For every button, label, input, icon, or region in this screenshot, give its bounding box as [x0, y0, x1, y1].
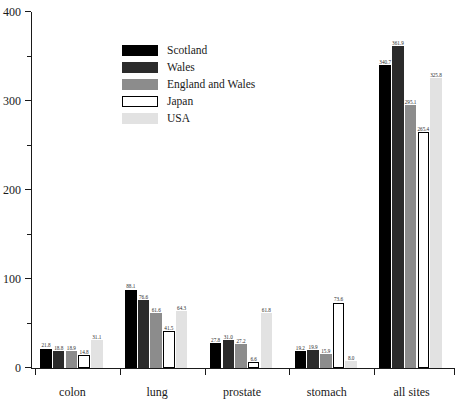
bar: 76.6: [138, 300, 150, 368]
chart-legend: ScotlandWalesEngland and WalesJapanUSA: [122, 42, 255, 127]
x-axis-category-label: prostate: [223, 386, 261, 398]
bar-value-label: 340.7: [379, 60, 391, 65]
bar-value-label: 14.8: [80, 350, 89, 355]
bar: 88.1: [125, 290, 137, 368]
bar-value-label: 361.9: [392, 41, 404, 46]
bar: 64.3: [176, 311, 188, 368]
bar: 61.8: [261, 313, 273, 368]
x-axis-category-label: colon: [59, 386, 86, 398]
y-axis-tick-label: 300: [3, 95, 21, 107]
bar: 19.9: [307, 350, 319, 368]
x-axis-tick: [120, 368, 121, 375]
bar: 61.6: [150, 313, 162, 368]
bar-value-label: 31.0: [224, 335, 233, 340]
y-axis-tick: 0: [25, 367, 31, 368]
bar-value-label: 265.4: [417, 127, 429, 132]
legend-label: Scotland: [167, 45, 207, 57]
legend-item: Japan: [122, 93, 255, 110]
bar-value-label: 61.6: [152, 308, 161, 313]
bar-value-label: 19.9: [309, 345, 318, 350]
bar-value-label: 88.1: [126, 284, 135, 289]
bar: 15.9: [320, 354, 332, 368]
bar-value-label: 6.6: [250, 357, 256, 362]
bar-value-label: 18.8: [54, 346, 63, 351]
bar: 14.8: [78, 355, 90, 368]
bar-value-label: 41.5: [164, 326, 173, 331]
bar: 21.8: [40, 349, 52, 368]
legend-item: England and Wales: [122, 76, 255, 93]
y-axis-tick: 100: [25, 278, 31, 279]
x-axis-tick: [289, 368, 290, 375]
y-axis-minor-tick: [27, 323, 31, 324]
legend-item: USA: [122, 110, 255, 127]
y-axis-tick-label: 400: [3, 6, 21, 18]
y-axis-tick: 300: [25, 100, 31, 101]
legend-label: Japan: [167, 96, 193, 108]
x-axis-tick: [454, 368, 455, 375]
x-axis-category-label: lung: [147, 386, 168, 398]
legend-swatch: [122, 45, 158, 56]
bar: 73.6: [333, 303, 345, 369]
bar: 18.8: [53, 351, 65, 368]
x-axis-category-label: all sites: [393, 386, 429, 398]
bar-value-label: 61.8: [262, 308, 271, 313]
bar: 6.6: [248, 362, 260, 368]
x-axis-tick: [35, 368, 36, 375]
legend-swatch: [122, 79, 158, 90]
legend-swatch: [122, 113, 158, 124]
y-axis-tick-label: 0: [15, 362, 21, 374]
bar-value-label: 76.6: [139, 295, 148, 300]
legend-label: England and Wales: [167, 79, 255, 91]
y-axis-tick: 200: [25, 189, 31, 190]
bar: 340.7: [379, 65, 391, 368]
y-axis-tick-label: 100: [3, 273, 21, 285]
bar-value-label: 27.8: [211, 338, 220, 343]
bar: 18.9: [66, 351, 78, 368]
grouped-bar-chart: 0100200300400colon21.818.818.914.831.1lu…: [0, 0, 462, 405]
y-axis-minor-tick: [27, 234, 31, 235]
x-axis-line: [31, 368, 455, 369]
bar-value-label: 325.8: [430, 73, 442, 78]
x-axis-tick: [205, 368, 206, 375]
bar-value-label: 31.1: [92, 335, 101, 340]
bar: 41.5: [163, 331, 175, 368]
bar-value-label: 15.9: [321, 349, 330, 354]
bar: 31.0: [223, 340, 235, 368]
bar: 325.8: [430, 78, 442, 368]
bar-value-label: 64.3: [177, 306, 186, 311]
bar: 31.1: [91, 340, 103, 368]
bar-value-label: 18.9: [67, 346, 76, 351]
legend-item: Wales: [122, 59, 255, 76]
bar: 295.1: [405, 105, 417, 368]
y-axis-tick: 400: [25, 11, 31, 12]
y-axis-minor-tick: [27, 56, 31, 57]
x-axis-category-label: stomach: [307, 386, 347, 398]
bar-value-label: 19.2: [296, 346, 305, 351]
bar: 19.2: [295, 351, 307, 368]
y-axis-minor-tick: [27, 145, 31, 146]
bar: 361.9: [392, 46, 404, 368]
legend-label: USA: [167, 113, 190, 125]
y-axis-tick-label: 200: [3, 184, 21, 196]
bar-value-label: 295.1: [405, 100, 417, 105]
x-axis-tick: [374, 368, 375, 375]
bar-value-label: 21.8: [41, 343, 50, 348]
bar: 265.4: [418, 132, 430, 368]
legend-item: Scotland: [122, 42, 255, 59]
bar: 8.0: [345, 361, 357, 368]
bar: 27.2: [235, 344, 247, 368]
bar-value-label: 73.6: [334, 297, 343, 302]
legend-label: Wales: [167, 62, 195, 74]
bar-value-label: 8.0: [348, 356, 354, 361]
bar: 27.8: [210, 343, 222, 368]
legend-swatch: [122, 96, 158, 107]
bar-value-label: 27.2: [236, 339, 245, 344]
legend-swatch: [122, 62, 158, 73]
